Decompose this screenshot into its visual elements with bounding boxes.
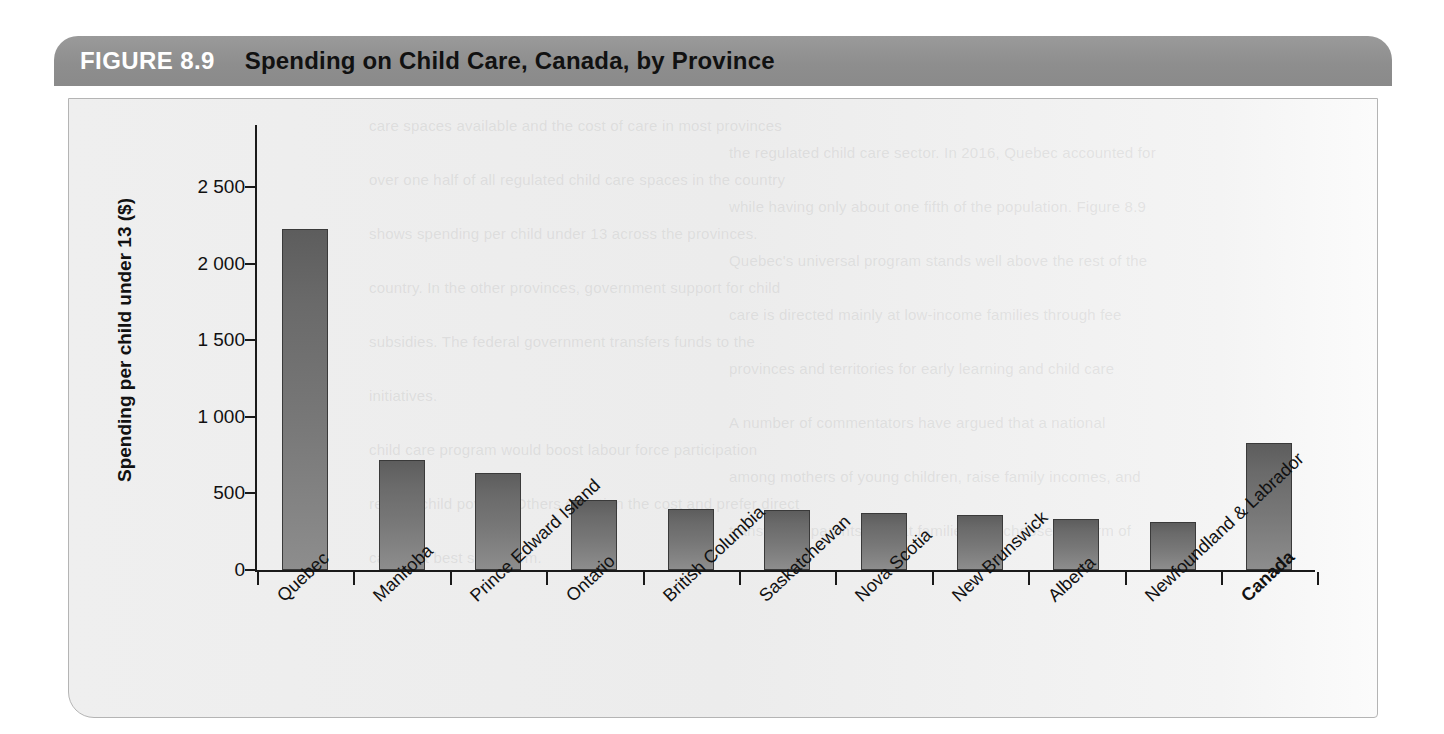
y-tick-label: 500: [95, 482, 245, 504]
y-tick-label: 1 500: [95, 329, 245, 351]
figure-title: Spending on Child Care, Canada, by Provi…: [245, 47, 775, 75]
figure-header: FIGURE 8.9 Spending on Child Care, Canad…: [54, 36, 1392, 86]
plot-area: Spending per child under 13 ($) 2 5002 0…: [69, 99, 1377, 717]
x-tick-mark: [1125, 572, 1127, 585]
y-tick-label: 2 000: [95, 253, 245, 275]
x-tick-mark: [1317, 572, 1319, 585]
x-tick-mark: [739, 572, 741, 585]
y-tick-mark: [245, 339, 256, 341]
y-tick-label: 0: [95, 559, 245, 581]
y-tick-mark: [245, 186, 256, 188]
x-tick-mark: [835, 572, 837, 585]
x-tick-mark: [1221, 572, 1223, 585]
figure-container: FIGURE 8.9 Spending on Child Care, Canad…: [54, 36, 1394, 720]
y-axis-line: [255, 125, 257, 572]
y-tick-label: 2 500: [95, 176, 245, 198]
y-tick-mark: [245, 263, 256, 265]
x-tick-mark: [643, 572, 645, 585]
y-tick-mark: [245, 492, 256, 494]
figure-number: FIGURE 8.9: [80, 47, 215, 75]
y-tick-label: 1 000: [95, 406, 245, 428]
chart-panel: care spaces available and the cost of ca…: [68, 98, 1378, 718]
x-tick-mark: [932, 572, 934, 585]
y-tick-mark: [245, 569, 256, 571]
x-tick-mark: [1028, 572, 1030, 585]
bar: [282, 229, 328, 570]
y-tick-mark: [245, 416, 256, 418]
x-tick-mark: [353, 572, 355, 585]
x-tick-mark: [257, 572, 259, 585]
x-tick-mark: [546, 572, 548, 585]
x-tick-mark: [450, 572, 452, 585]
